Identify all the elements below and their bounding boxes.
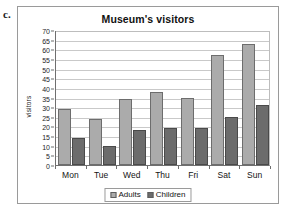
y-axis-tick-label: 55 xyxy=(42,56,50,63)
y-axis-tick-label: 40 xyxy=(42,85,50,92)
y-axis-tick-label: 20 xyxy=(42,124,50,131)
bar-group xyxy=(117,31,148,165)
x-axis-tick xyxy=(178,166,179,169)
bar-fri-children xyxy=(195,128,208,165)
legend-swatch-adults-icon xyxy=(110,192,116,198)
bar-mon-children xyxy=(72,138,85,165)
bar-group xyxy=(56,31,87,165)
x-axis-tick xyxy=(209,166,210,169)
y-axis-tick-label: 15 xyxy=(42,134,50,141)
bar-group xyxy=(179,31,210,165)
x-axis-tick-label: Mon xyxy=(62,170,79,180)
y-axis-tick-label: 60 xyxy=(42,47,50,54)
y-axis-tick-label: 50 xyxy=(42,66,50,73)
y-axis-tick xyxy=(51,137,54,138)
legend-label-adults: Adults xyxy=(118,190,140,199)
x-axis-tick-label: Fri xyxy=(188,170,198,180)
y-axis-tick xyxy=(51,50,54,51)
y-axis-tick xyxy=(51,69,54,70)
y-axis-tick-label: 30 xyxy=(42,105,50,112)
bar-thu-children xyxy=(164,128,177,165)
bar-group xyxy=(148,31,179,165)
bar-sun-adults xyxy=(242,44,255,166)
y-axis-tick xyxy=(51,108,54,109)
bar-group xyxy=(210,31,241,165)
x-axis-tick-labels: MonTueWedThuFriSatSun xyxy=(55,170,270,184)
chart-title: Museum's visitors xyxy=(18,13,278,25)
bar-mon-adults xyxy=(58,109,71,165)
y-axis-tick-labels: 0510152025303540455055606570 xyxy=(18,31,54,166)
y-axis-tick-label: 35 xyxy=(42,95,50,102)
bars-layer xyxy=(56,31,269,165)
y-axis-tick xyxy=(51,88,54,89)
x-axis-tick-label: Thu xyxy=(155,170,170,180)
y-axis-tick-label: 65 xyxy=(42,37,50,44)
bar-group xyxy=(240,31,271,165)
x-axis-tick-label: Sat xyxy=(218,170,231,180)
bar-tue-children xyxy=(103,146,116,165)
legend-item-adults: Adults xyxy=(110,190,140,199)
y-axis-tick-label: 45 xyxy=(42,76,50,83)
y-axis-tick-label: 70 xyxy=(42,28,50,35)
x-axis-tick xyxy=(86,166,87,169)
y-axis-tick xyxy=(51,166,54,167)
chart-figure: c. Museum's visitors visitors 0510152025… xyxy=(0,0,283,209)
bar-sun-children xyxy=(256,105,269,165)
y-axis-tick-label: 25 xyxy=(42,114,50,121)
legend-swatch-children-icon xyxy=(148,192,154,198)
x-axis-tick xyxy=(270,166,271,169)
x-axis-tick xyxy=(55,166,56,169)
y-axis-tick xyxy=(51,98,54,99)
bar-wed-adults xyxy=(119,99,132,165)
legend-label-children: Children xyxy=(156,190,186,199)
bar-group xyxy=(87,31,118,165)
bar-tue-adults xyxy=(89,119,102,165)
bar-wed-children xyxy=(133,130,146,165)
x-axis-tick xyxy=(147,166,148,169)
chart-legend: Adults Children xyxy=(104,188,191,202)
x-axis-tick xyxy=(116,166,117,169)
bar-thu-adults xyxy=(150,92,163,165)
y-axis-tick xyxy=(51,40,54,41)
bar-sat-children xyxy=(225,117,238,165)
plot-area xyxy=(55,31,270,166)
legend-item-children: Children xyxy=(148,190,186,199)
chart-frame: Museum's visitors visitors 0510152025303… xyxy=(17,6,279,204)
y-axis-tick xyxy=(51,127,54,128)
y-axis-tick-label: 5 xyxy=(46,153,50,160)
y-axis-tick xyxy=(51,156,54,157)
x-axis-tick-label: Tue xyxy=(94,170,108,180)
item-letter: c. xyxy=(3,8,11,20)
bar-sat-adults xyxy=(211,55,224,165)
y-axis-tick xyxy=(51,79,54,80)
y-axis-tick-label: 0 xyxy=(46,163,50,170)
y-axis-tick xyxy=(51,146,54,147)
y-axis-tick-label: 10 xyxy=(42,143,50,150)
y-axis-tick xyxy=(51,59,54,60)
x-axis-tick-label: Sun xyxy=(247,170,262,180)
bar-fri-adults xyxy=(181,98,194,166)
y-axis-tick xyxy=(51,117,54,118)
x-axis-tick-label: Wed xyxy=(123,170,140,180)
y-axis-tick xyxy=(51,31,54,32)
x-axis-tick xyxy=(239,166,240,169)
